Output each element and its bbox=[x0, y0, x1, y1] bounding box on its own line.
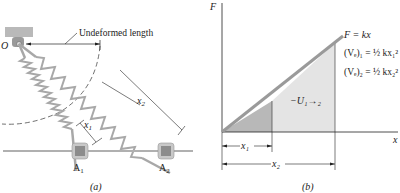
undeformed-arc bbox=[2, 46, 100, 124]
arrowhead-icon bbox=[95, 43, 100, 46]
x2-dim-label: x₂ bbox=[271, 158, 280, 169]
x1-label: x1 bbox=[83, 119, 92, 132]
arrowhead-icon bbox=[222, 145, 227, 148]
x-axis-label: x bbox=[392, 134, 398, 145]
ceiling-support bbox=[5, 27, 33, 37]
arrowhead-icon bbox=[267, 145, 272, 148]
x2-dimension-line bbox=[120, 70, 182, 130]
block-a2-label: A2 bbox=[159, 162, 170, 175]
figure-a-caption: (a) bbox=[90, 181, 102, 193]
figure-b: F x F = kx (Vₑ)₁ = ½ kx₁² (Vₑ)₂ = ½ kx₂²… bbox=[209, 1, 398, 193]
figure-a: O Undeformed length x1 x2 bbox=[1, 27, 193, 193]
force-line-label: F = kx bbox=[343, 29, 371, 40]
figure-b-caption: (b) bbox=[302, 181, 314, 193]
arrowhead-icon bbox=[222, 163, 227, 166]
undeformed-length-label: Undeformed length bbox=[79, 28, 153, 38]
eq-ve2: (Vₑ)₂ = ½ kx₂² bbox=[344, 67, 398, 78]
arrowhead-icon bbox=[26, 43, 31, 46]
area-work bbox=[272, 43, 335, 132]
work-area-label: −U₁→₂ bbox=[290, 95, 321, 106]
eq-ve1: (Vₑ)₁ = ½ kx₁² bbox=[344, 48, 398, 59]
arrowhead-icon bbox=[330, 163, 335, 166]
diagram-canvas: O Undeformed length x1 x2 bbox=[0, 0, 400, 193]
x1-dim-label: x₁ bbox=[240, 140, 249, 151]
spring-2 bbox=[19, 44, 170, 173]
y-axis-label: F bbox=[209, 1, 217, 12]
arc-leader-line bbox=[102, 82, 140, 105]
x2-label: x2 bbox=[136, 95, 145, 108]
pivot-label: O bbox=[1, 40, 8, 51]
leader-line bbox=[65, 33, 77, 44]
block-a1-label: A1 bbox=[73, 162, 84, 175]
